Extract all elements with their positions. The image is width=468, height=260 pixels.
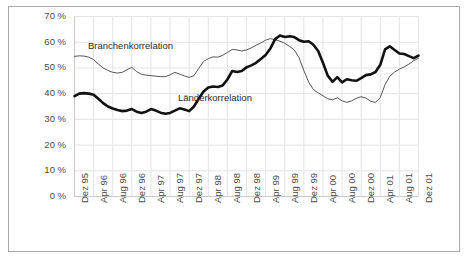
x-tick-label: Dez 97 xyxy=(193,172,204,202)
x-tick-label: Aug 99 xyxy=(289,172,300,202)
x-tick-label: Apr 99 xyxy=(270,175,281,203)
laenderkorrelation-label: Länderkorrelation xyxy=(178,92,252,103)
x-tick-label: Aug 96 xyxy=(117,172,128,202)
y-tick-label: 40 % xyxy=(20,87,66,98)
y-tick-label: 70 % xyxy=(20,10,66,21)
y-tick-label: 30 % xyxy=(20,113,66,124)
x-tick-label: Aug 97 xyxy=(174,172,185,202)
x-tick-label: Apr 98 xyxy=(212,175,223,203)
x-tick-label: Aug 00 xyxy=(346,172,357,202)
y-tick-label: 20 % xyxy=(20,139,66,150)
x-tick-label: Dez 98 xyxy=(251,172,262,202)
x-tick-label: Dez 95 xyxy=(79,172,90,202)
correlation-chart-figure: 0 %10 %20 %30 %40 %50 %60 %70 % Dez 95Ap… xyxy=(0,0,468,260)
x-tick-label: Apr 00 xyxy=(327,175,338,203)
x-tick-label: Dez 96 xyxy=(136,172,147,202)
x-tick-label: Dez 99 xyxy=(308,172,319,202)
plot-area: 0 %10 %20 %30 %40 %50 %60 %70 % Dez 95Ap… xyxy=(0,0,468,260)
y-tick-label: 0 % xyxy=(20,190,66,201)
chart-canvas xyxy=(0,0,468,260)
x-tick-label: Dez 00 xyxy=(365,172,376,202)
x-tick-label: Aug 98 xyxy=(231,172,242,202)
y-tick-label: 50 % xyxy=(20,61,66,72)
branchenkorrelation-label: Branchenkorrelation xyxy=(88,40,173,51)
x-tick-label: Apr 96 xyxy=(98,175,109,203)
y-tick-label: 60 % xyxy=(20,36,66,47)
x-tick-label: Apr 97 xyxy=(155,175,166,203)
x-tick-label: Dez 01 xyxy=(423,172,434,202)
x-tick-label: Aug 01 xyxy=(403,172,414,202)
y-tick-label: 10 % xyxy=(20,164,66,175)
x-tick-label: Apr 01 xyxy=(384,175,395,203)
